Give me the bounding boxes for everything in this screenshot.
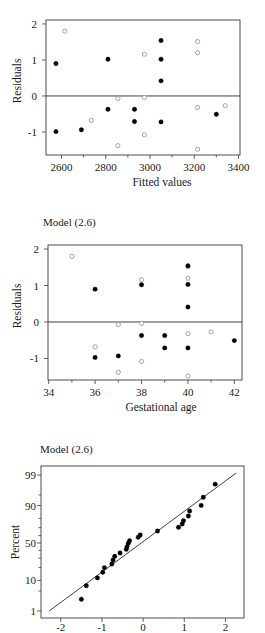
open-circle-point <box>195 105 199 109</box>
filled-circle-point <box>132 119 136 123</box>
x-tick-label: 3000 <box>139 161 162 173</box>
plot-area: -2-1012110509099 <box>25 466 244 633</box>
open-circle-point <box>209 330 213 334</box>
open-circle-point <box>186 332 190 336</box>
open-circle-point <box>93 345 97 349</box>
filled-circle-point <box>79 128 83 132</box>
x-tick-label: 2800 <box>95 161 118 173</box>
plot-area: 3436384042-1012 <box>30 243 242 398</box>
x-axis-label: Fitted values <box>132 176 192 188</box>
x-axis-label: Gestational age <box>125 401 196 414</box>
filled-circle-point <box>118 551 122 555</box>
filled-circle-point <box>132 107 136 111</box>
filled-circle-point <box>176 525 180 529</box>
open-circle-point <box>223 104 227 108</box>
filled-circle-point <box>159 38 163 42</box>
y-tick-label: 90 <box>25 500 37 512</box>
filled-circle-point <box>102 565 106 569</box>
y-tick-label: 10 <box>25 574 37 586</box>
x-tick-label: 42 <box>229 386 240 398</box>
open-circle-point <box>63 29 67 33</box>
filled-circle-point <box>159 57 163 61</box>
open-circle-point <box>195 147 199 151</box>
filled-circle-point <box>54 61 58 65</box>
open-circle-point <box>139 321 143 325</box>
filled-circle-point <box>101 570 105 574</box>
open-circle-point <box>142 133 146 137</box>
y-tick-label: 50 <box>25 537 37 549</box>
open-circle-point <box>195 40 199 44</box>
y-tick-label: -1 <box>28 126 37 138</box>
filled-circle-point <box>186 346 190 350</box>
x-tick-label: -1 <box>97 621 106 633</box>
x-tick-label: -2 <box>56 621 65 633</box>
filled-circle-point <box>139 333 143 337</box>
panel-residuals-vs-gestational-age: Model (2.6) Residuals Gestational age 34… <box>11 216 242 414</box>
filled-circle-point <box>93 287 97 291</box>
x-tick-label: 40 <box>182 386 194 398</box>
y-tick-label: 2 <box>34 243 40 255</box>
filled-circle-point <box>138 533 142 537</box>
open-circle-point <box>116 370 120 374</box>
y-tick-label: 1 <box>31 605 37 617</box>
x-tick-label: 34 <box>43 386 55 398</box>
panel-title: Model (2.6) <box>43 216 96 229</box>
open-circle-point <box>116 144 120 148</box>
filled-circle-point <box>186 282 190 286</box>
filled-circle-point <box>127 539 131 543</box>
plot-area: 26002800300032003400-1012 <box>28 18 250 173</box>
y-tick-label: 99 <box>25 469 37 481</box>
open-circle-point <box>186 374 190 378</box>
y-axis-label: Percent <box>9 524 21 559</box>
open-circle-point <box>89 118 93 122</box>
filled-circle-point <box>199 503 203 507</box>
open-circle-point <box>116 322 120 326</box>
panel-normal-probability-plot: Model (2.6) Percent -2-1012110509099 <box>9 443 244 633</box>
plot-frame <box>48 245 242 380</box>
filled-circle-point <box>186 264 190 268</box>
y-tick-label: 2 <box>32 18 38 30</box>
filled-circle-point <box>159 120 163 124</box>
x-tick-label: 36 <box>90 386 102 398</box>
filled-circle-point <box>79 597 83 601</box>
open-circle-point <box>139 359 143 363</box>
open-circle-point <box>142 95 146 99</box>
filled-circle-point <box>110 562 114 566</box>
filled-circle-point <box>116 354 120 358</box>
figure: Residuals Fitted values 2600280030003200… <box>0 0 265 633</box>
filled-circle-point <box>159 79 163 83</box>
filled-circle-point <box>186 514 190 518</box>
filled-circle-point <box>84 583 88 587</box>
y-tick-label: 1 <box>32 54 38 66</box>
filled-circle-point <box>93 355 97 359</box>
x-tick-label: 3200 <box>183 161 206 173</box>
filled-circle-point <box>186 305 190 309</box>
y-axis-label: Residuals <box>11 283 23 328</box>
filled-circle-point <box>163 333 167 337</box>
panel-residuals-vs-fitted: Residuals Fitted values 2600280030003200… <box>11 18 250 188</box>
open-circle-point <box>186 276 190 280</box>
filled-circle-point <box>113 554 117 558</box>
filled-circle-point <box>214 112 218 116</box>
x-tick-label: 38 <box>136 386 148 398</box>
y-tick-label: 0 <box>32 90 38 102</box>
filled-circle-point <box>232 338 236 342</box>
filled-circle-point <box>181 519 185 523</box>
filled-circle-point <box>163 346 167 350</box>
x-tick-label: 3400 <box>227 161 250 173</box>
x-tick-label: 2600 <box>50 161 73 173</box>
y-tick-label: 0 <box>34 316 40 328</box>
filled-circle-point <box>155 529 159 533</box>
y-tick-label: 1 <box>34 280 40 292</box>
open-circle-point <box>116 96 120 100</box>
open-circle-point <box>142 52 146 56</box>
open-circle-point <box>195 51 199 55</box>
panel-title: Model (2.6) <box>40 443 93 456</box>
filled-circle-point <box>106 57 110 61</box>
filled-circle-point <box>213 482 217 486</box>
open-circle-point <box>139 278 143 282</box>
filled-circle-point <box>187 509 191 513</box>
x-tick-label: 1 <box>182 621 188 633</box>
fitted-normal-line <box>49 473 236 611</box>
open-circle-point <box>70 254 74 258</box>
